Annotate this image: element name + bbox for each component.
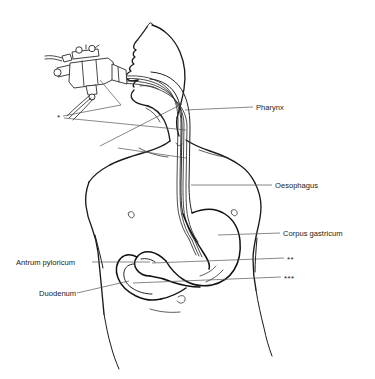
label-antrum-pyloricum: Antrum pyloricum [16,258,75,267]
label-duodenum: Duodenum [39,289,76,298]
endoscopy-figure: Pharynx Oesophagus Corpus gastricum Antr… [0,0,375,379]
label-corpus-gastricum: Corpus gastricum [283,229,343,238]
endoscopy-illustration: Pharynx Oesophagus Corpus gastricum Antr… [0,0,375,379]
marker-asterisk-two: ** [287,255,294,264]
label-oesophagus: Oesophagus [275,181,318,190]
label-pharynx: Pharynx [256,103,284,112]
marker-asterisk-one: * [57,113,61,122]
marker-asterisk-three: *** [284,274,295,283]
figure-background [0,0,375,379]
